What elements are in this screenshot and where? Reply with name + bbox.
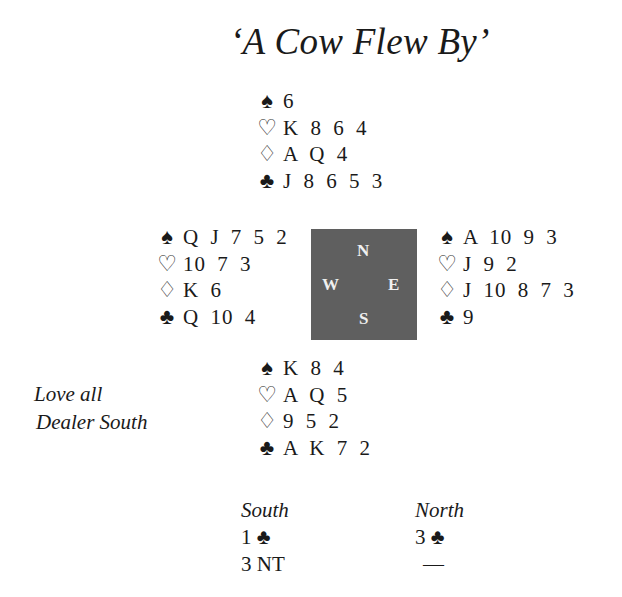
bidding-header-north: North <box>415 497 464 524</box>
east-hearts: ♡J 9 2 <box>435 251 575 278</box>
compass-west: W <box>322 275 339 295</box>
diagram-title: ‘A Cow Flew By’ <box>230 20 490 63</box>
south-spades: ♠K 8 4 <box>255 355 371 382</box>
bid: 1 ♣ <box>241 524 289 551</box>
heart-icon: ♡ <box>435 251 459 278</box>
bidding-north-column: North 3 ♣ — <box>415 497 464 578</box>
west-hearts: ♡10 7 3 <box>155 251 288 278</box>
club-icon: ♣ <box>255 435 279 462</box>
west-diamonds: ♢K 6 <box>155 277 288 304</box>
east-diamonds: ♢J 10 8 7 3 <box>435 277 575 304</box>
spade-icon: ♠ <box>255 355 279 382</box>
east-spades: ♠A 10 9 3 <box>435 224 575 251</box>
north-clubs: ♣J 8 6 5 3 <box>255 168 383 195</box>
south-hand: ♠K 8 4 ♡A Q 5 ♢9 5 2 ♣A K 7 2 <box>255 355 371 461</box>
east-hand: ♠A 10 9 3 ♡J 9 2 ♢J 10 8 7 3 ♣9 <box>435 224 575 330</box>
north-hearts: ♡K 8 6 4 <box>255 115 383 142</box>
compass-box: N W E S <box>311 229 417 340</box>
west-hand: ♠Q J 7 5 2 ♡10 7 3 ♢K 6 ♣Q 10 4 <box>155 224 288 330</box>
compass-east: E <box>388 275 399 295</box>
bid: 3 ♣ <box>415 524 464 551</box>
compass-south: S <box>359 309 368 329</box>
west-spades: ♠Q J 7 5 2 <box>155 224 288 251</box>
south-clubs: ♣A K 7 2 <box>255 435 371 462</box>
diamond-icon: ♢ <box>255 408 279 435</box>
bid: 3 NT <box>241 551 289 578</box>
compass-north: N <box>357 241 369 261</box>
bidding-south-column: South 1 ♣ 3 NT <box>241 497 289 578</box>
club-icon: ♣ <box>155 304 179 331</box>
diamond-icon: ♢ <box>255 141 279 168</box>
club-icon: ♣ <box>255 168 279 195</box>
heart-icon: ♡ <box>255 382 279 409</box>
bid: — <box>415 551 464 578</box>
north-hand: ♠6 ♡K 8 6 4 ♢A Q 4 ♣J 8 6 5 3 <box>255 88 383 194</box>
heart-icon: ♡ <box>255 115 279 142</box>
heart-icon: ♡ <box>155 251 179 278</box>
north-spades: ♠6 <box>255 88 383 115</box>
club-icon: ♣ <box>435 304 459 331</box>
deal-info: Love all Dealer South <box>34 380 147 436</box>
south-diamonds: ♢9 5 2 <box>255 408 371 435</box>
spade-icon: ♠ <box>155 224 179 251</box>
diamond-icon: ♢ <box>155 277 179 304</box>
north-diamonds: ♢A Q 4 <box>255 141 383 168</box>
vulnerability-label: Love all <box>34 380 147 408</box>
spade-icon: ♠ <box>435 224 459 251</box>
spade-icon: ♠ <box>255 88 279 115</box>
diamond-icon: ♢ <box>435 277 459 304</box>
dealer-label: Dealer South <box>36 408 147 436</box>
bidding-header-south: South <box>241 497 289 524</box>
south-hearts: ♡A Q 5 <box>255 382 371 409</box>
east-clubs: ♣9 <box>435 304 575 331</box>
west-clubs: ♣Q 10 4 <box>155 304 288 331</box>
